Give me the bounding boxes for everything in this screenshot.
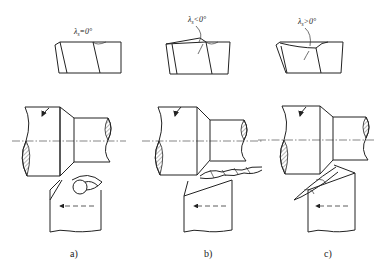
panel-label-b: b) — [204, 248, 212, 260]
rotation-arrow-icon — [300, 107, 306, 116]
panel-c-tool-top-view: λs>0° — [276, 17, 343, 73]
angle-label-a: λs=0° — [73, 27, 93, 37]
angle-label-b: λs<0° — [187, 15, 207, 25]
angle-label-c: λs>0° — [297, 17, 317, 27]
panel-label-a: a) — [70, 248, 78, 260]
panel-a-turning-view — [12, 107, 126, 232]
tool-inclination-diagram: λs=0° λs<0° λs>0° — [0, 0, 388, 270]
rotation-arrow-icon — [42, 108, 49, 116]
rotation-arrow-icon — [175, 107, 181, 116]
panel-label-c: c) — [324, 248, 332, 260]
panel-b-turning-view — [142, 107, 262, 232]
panel-b-tool-top-view: λs<0° — [166, 15, 230, 74]
panel-a-tool-top-view: λs=0° — [55, 27, 121, 73]
panel-c-turning-view — [258, 106, 376, 232]
